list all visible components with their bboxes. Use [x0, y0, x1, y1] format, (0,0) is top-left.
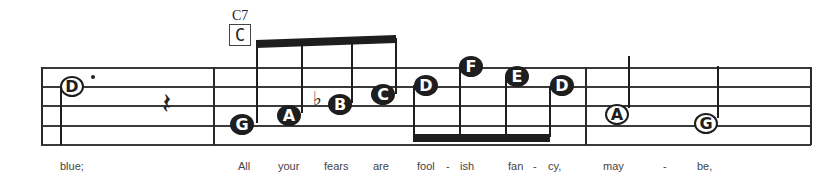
note-stem — [459, 66, 461, 137]
note-g: G — [230, 114, 254, 135]
quarter-rest-icon: 𝄽 — [162, 86, 171, 122]
note-stem — [256, 45, 258, 123]
staff-line-3 — [41, 105, 811, 107]
staff-line-1 — [41, 67, 811, 69]
note-d: D — [414, 75, 438, 96]
lyric: fears — [324, 160, 348, 172]
note-a-half: A — [605, 104, 629, 125]
note-stem — [628, 56, 630, 108]
lyric: be, — [697, 160, 712, 172]
note-f: F — [459, 56, 483, 77]
note-b-flat: B — [328, 94, 352, 115]
lyric: cy, — [548, 160, 561, 172]
lyric: - — [663, 160, 667, 172]
lyric: your — [278, 160, 299, 172]
barline-2 — [585, 67, 587, 145]
lyric: blue; — [60, 160, 84, 172]
note-d-dotted-half: D — [60, 76, 84, 97]
beam-bottom — [413, 134, 550, 142]
beam-top — [256, 35, 396, 48]
note-stem — [717, 66, 719, 118]
barline-end — [810, 67, 812, 145]
lyric: fan — [508, 160, 523, 172]
lyric: - — [533, 160, 537, 172]
lyric: are — [373, 160, 389, 172]
barline-1 — [213, 67, 215, 145]
augmentation-dot — [91, 75, 95, 79]
note-e: E — [505, 66, 529, 87]
staff-line-5 — [41, 144, 811, 146]
lyric: fool — [417, 160, 435, 172]
note-d: D — [550, 75, 574, 96]
note-a: A — [277, 105, 301, 126]
lyric: - — [446, 160, 450, 172]
note-stem — [395, 38, 397, 94]
note-g-half: G — [694, 113, 718, 134]
note-stem — [413, 85, 415, 137]
lyric: ish — [460, 160, 474, 172]
chord-name: C7 — [232, 8, 248, 24]
lyric: All — [238, 160, 250, 172]
chord-box: C — [229, 24, 251, 46]
note-stem — [505, 76, 507, 137]
flat-icon: ♭ — [313, 87, 322, 109]
note-stem — [60, 88, 62, 145]
note-stem — [301, 44, 303, 113]
note-stem — [549, 86, 551, 137]
barline-start — [41, 67, 43, 145]
note-stem — [351, 42, 353, 103]
note-c: C — [371, 84, 395, 105]
lyric: may — [603, 160, 624, 172]
